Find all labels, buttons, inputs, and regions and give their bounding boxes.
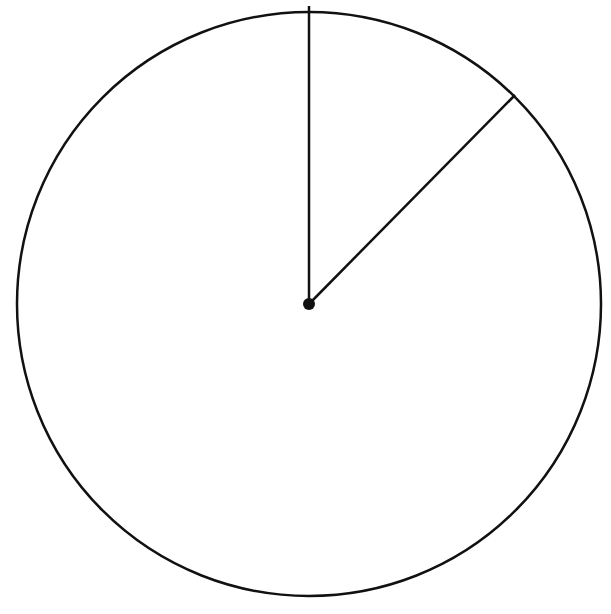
radius-diagonal <box>309 95 515 304</box>
center-point <box>303 298 315 310</box>
circle-diagram <box>0 0 611 614</box>
